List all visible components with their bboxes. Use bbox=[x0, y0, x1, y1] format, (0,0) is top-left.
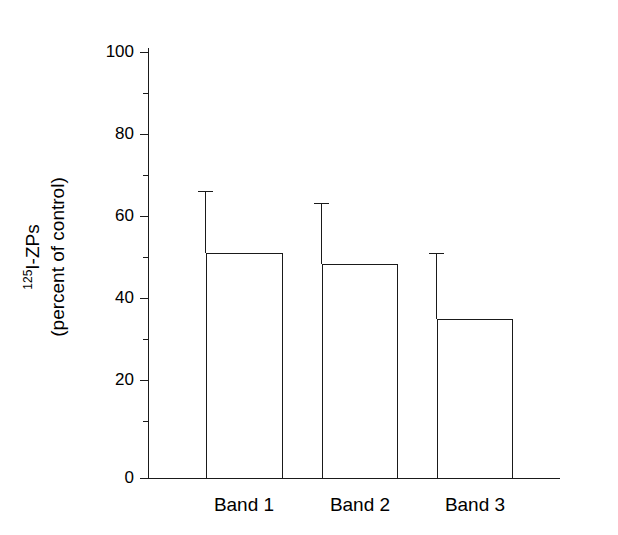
y-tick-40: 40 bbox=[140, 298, 148, 299]
y-axis-label-line-2: (percent of control) bbox=[45, 92, 70, 422]
x-axis-line bbox=[148, 478, 560, 479]
bar-band-1 bbox=[206, 253, 283, 478]
y-tick-0: 0 bbox=[140, 478, 148, 479]
y-axis-label-line-1: 125I-ZPs bbox=[20, 92, 45, 422]
y-tick-80: 80 bbox=[140, 134, 148, 135]
error-bar-line-band-2 bbox=[321, 203, 322, 264]
y-tick-minor-50 bbox=[143, 257, 148, 258]
x-tick-label-band-2: Band 2 bbox=[309, 494, 411, 516]
y-axis-line bbox=[148, 48, 149, 478]
y-tick-minor-10 bbox=[143, 421, 148, 422]
bar-band-3 bbox=[437, 319, 513, 478]
plot-area: 100 80 60 40 20 0 bbox=[148, 48, 560, 478]
y-tick-60: 60 bbox=[140, 216, 148, 217]
y-axis-label-container: 125I-ZPs (percent of control) bbox=[0, 0, 90, 535]
error-bar-cap-band-2 bbox=[314, 203, 329, 204]
y-axis-label-line-1-text: I-ZPs bbox=[22, 224, 43, 269]
error-bar-line-band-1 bbox=[205, 191, 206, 253]
y-tick-minor-90 bbox=[143, 93, 148, 94]
y-tick-label-40: 40 bbox=[115, 288, 134, 308]
x-tick-label-band-3: Band 3 bbox=[424, 494, 526, 516]
y-tick-label-80: 80 bbox=[115, 124, 134, 144]
y-tick-100: 100 bbox=[140, 52, 148, 53]
y-tick-label-60: 60 bbox=[115, 206, 134, 226]
chart-figure: 125I-ZPs (percent of control) 100 80 60 … bbox=[0, 0, 618, 535]
y-tick-minor-30 bbox=[143, 339, 148, 340]
x-tick-label-band-1: Band 1 bbox=[193, 494, 295, 516]
error-bar-cap-band-3 bbox=[429, 253, 444, 254]
y-tick-label-100: 100 bbox=[106, 42, 134, 62]
y-tick-20: 20 bbox=[140, 380, 148, 381]
error-bar-cap-band-1 bbox=[198, 191, 213, 192]
error-bar-line-band-3 bbox=[436, 253, 437, 319]
bar-band-2 bbox=[322, 264, 398, 478]
y-axis-label: 125I-ZPs (percent of control) bbox=[20, 92, 70, 422]
y-axis-label-superscript: 125 bbox=[21, 270, 35, 290]
y-tick-label-20: 20 bbox=[115, 370, 134, 390]
y-tick-label-0: 0 bbox=[125, 468, 134, 488]
y-tick-minor-70 bbox=[143, 175, 148, 176]
